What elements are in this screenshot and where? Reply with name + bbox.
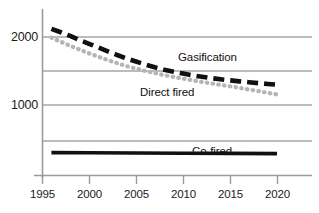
x-tick-label-1995: 1995: [18, 188, 67, 200]
x-tick-label-2010: 2010: [159, 188, 208, 200]
y-tick-label-2000: 2000: [0, 30, 38, 44]
x-tick-label-2015: 2015: [206, 188, 255, 200]
x-axis-ticks: [43, 175, 278, 184]
series-annotation-cofired: Co-fired: [192, 145, 232, 157]
series-annotation-gasification: Gasification: [178, 51, 237, 63]
series-annotation-direct-fired: Direct fired: [140, 86, 194, 98]
chart-container: 2000 1000 1995 2000 2005 2010 2015 2020 …: [0, 0, 319, 213]
y-tick-label-1000: 1000: [0, 98, 38, 112]
chart-plot-area: [0, 0, 319, 213]
x-tick-label-2005: 2005: [112, 188, 161, 200]
series-line-cofired: [51, 153, 277, 154]
x-tick-label-2000: 2000: [65, 188, 114, 200]
x-tick-label-2020: 2020: [253, 188, 302, 200]
